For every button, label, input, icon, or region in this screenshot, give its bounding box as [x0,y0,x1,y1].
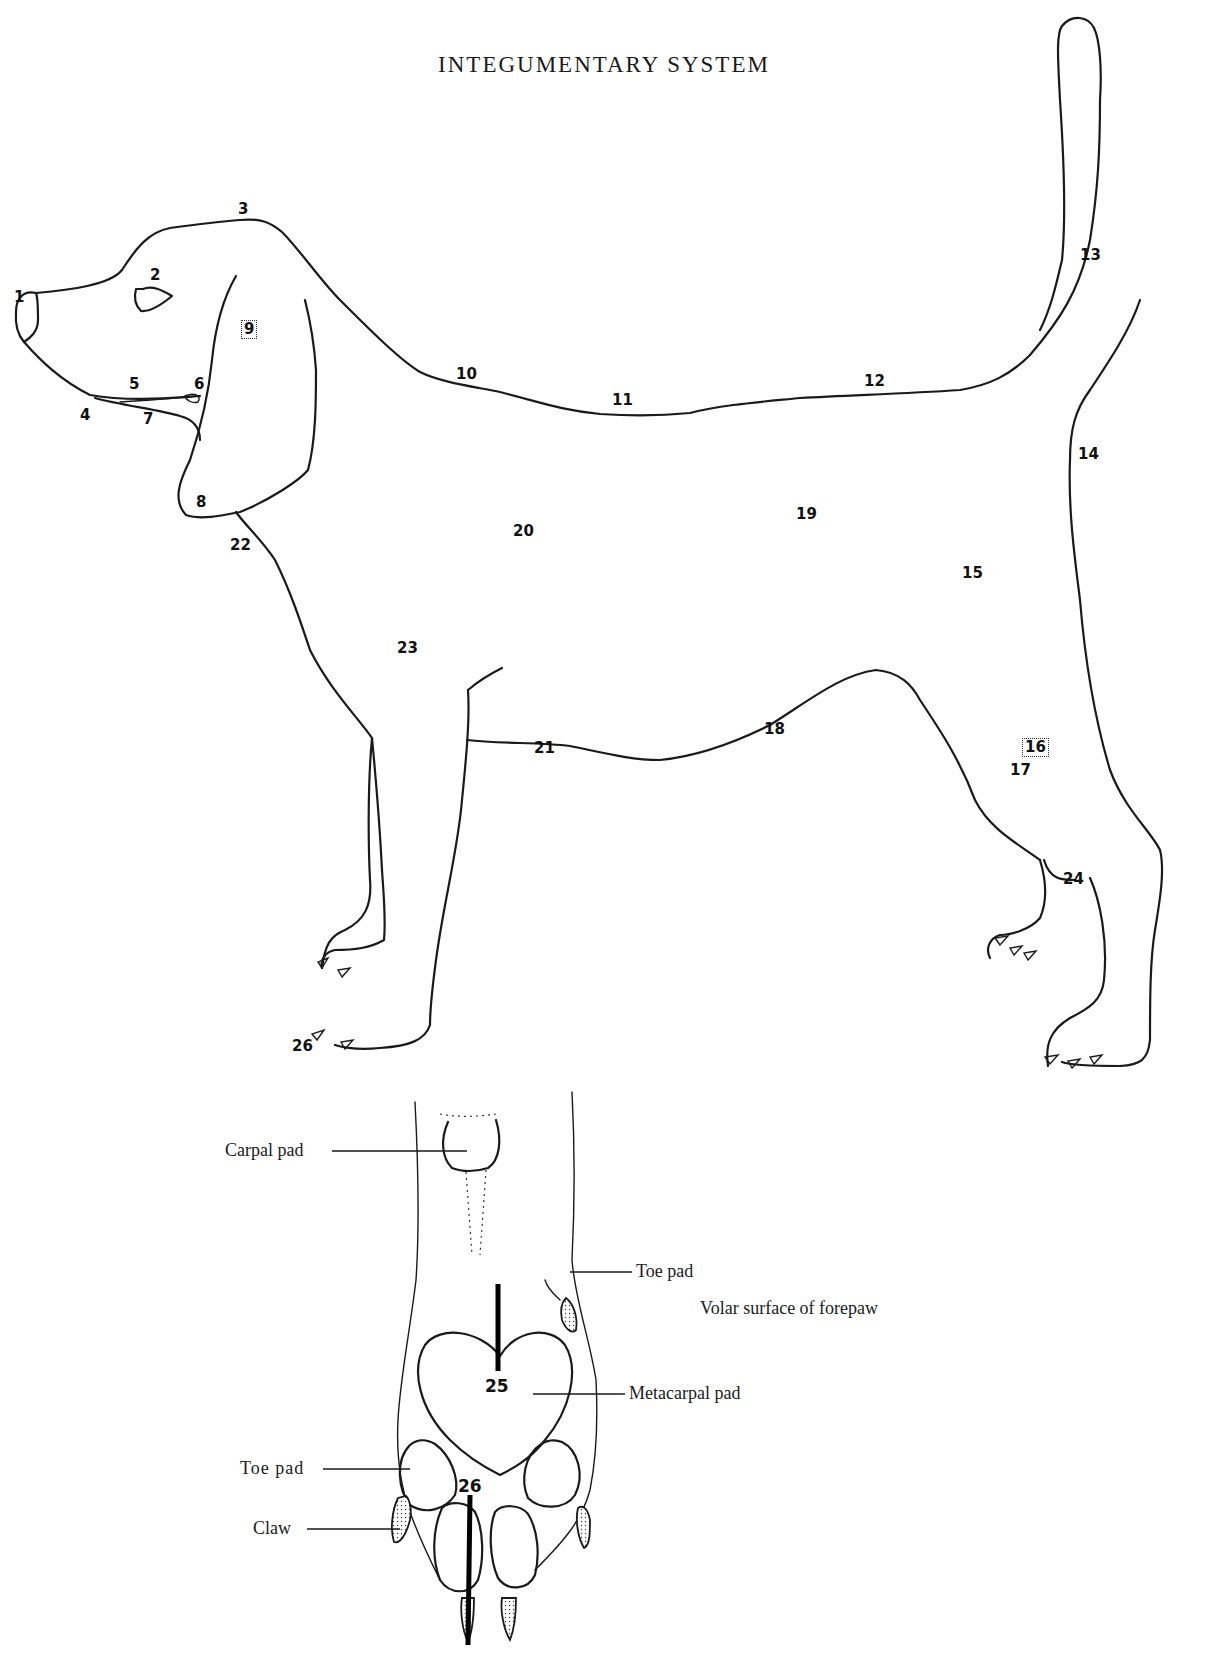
label-26-lateral: 26 [292,1039,313,1054]
label-15: 15 [962,566,983,581]
label-8: 8 [196,495,206,510]
callout-claw: Claw [253,1519,291,1537]
label-24: 24 [1063,872,1084,887]
label-18: 18 [764,722,785,737]
label-26-forepaw: 26 [458,1478,482,1495]
dog-lateral-outline [16,18,1162,1066]
label-19: 19 [796,507,817,522]
label-22: 22 [230,538,251,553]
label-12: 12 [864,374,885,389]
label-3: 3 [238,202,248,217]
label-2: 2 [150,268,160,283]
label-10: 10 [456,367,477,382]
callout-carpal-pad: Carpal pad [225,1141,303,1159]
forepaw-outline [307,1092,632,1645]
callout-toe-pad-upper: Toe pad [636,1262,693,1280]
label-16: 16 [1022,738,1049,757]
callout-toe-pad-lower: Toe pad [240,1459,304,1477]
label-4: 4 [80,408,90,423]
forepaw-view-title: Volar surface of forepaw [700,1299,878,1317]
label-25: 25 [485,1378,509,1395]
label-21: 21 [534,741,555,756]
label-23: 23 [397,641,418,656]
label-9: 9 [241,320,257,339]
label-20: 20 [513,524,534,539]
callout-metacarpal-pad: Metacarpal pad [629,1384,740,1402]
label-14: 14 [1078,447,1099,462]
label-5: 5 [129,377,139,392]
label-17: 17 [1010,763,1031,778]
dog-illustration [0,0,1208,1663]
label-1: 1 [14,290,24,305]
label-7: 7 [143,412,153,427]
label-11: 11 [612,393,633,408]
label-13: 13 [1080,248,1101,263]
label-6: 6 [194,377,204,392]
